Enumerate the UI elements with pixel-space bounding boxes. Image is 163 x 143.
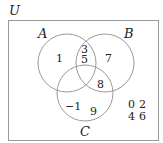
region-c-only-value-2: 9 [90, 105, 97, 118]
region-bc-value: 8 [97, 78, 104, 91]
venn-diagram: U A B C 1 3 5 7 8 −1 9 0 2 4 6 [0, 0, 163, 143]
region-a-only-value: 1 [56, 52, 63, 65]
universe-rectangle [9, 21, 159, 141]
universe-label: U [9, 3, 21, 18]
region-c-only-value-1: −1 [65, 100, 81, 113]
set-c-label: C [80, 124, 90, 139]
outside-value-4: 6 [139, 110, 146, 123]
set-a-label: A [37, 26, 47, 41]
region-ab-value-2: 5 [81, 53, 88, 66]
set-b-label: B [123, 26, 134, 41]
region-b-only-value: 7 [105, 52, 112, 65]
outside-value-3: 4 [128, 110, 135, 123]
